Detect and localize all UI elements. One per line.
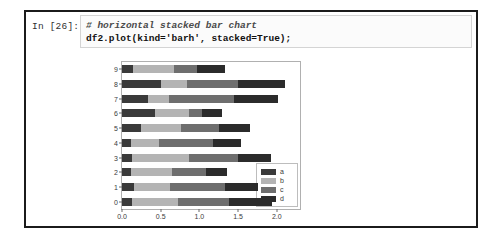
y-axis-tick-label: 4 <box>114 139 118 146</box>
bar-segment-d <box>234 95 278 103</box>
legend-label-b: b <box>280 177 284 184</box>
bar-segment-b <box>132 154 188 162</box>
x-axis-tick-mark <box>276 209 277 212</box>
bar-segment-a <box>122 80 161 88</box>
code-editor[interactable]: # horizontal stacked bar chart df2.plot(… <box>80 15 472 48</box>
legend-label-d: d <box>280 195 284 202</box>
stacked-bar <box>122 183 258 191</box>
matplotlib-figure: abcd 0.00.51.01.52.00123456789 <box>74 53 334 223</box>
bar-segment-c <box>187 80 238 88</box>
notebook-cell: In [26]: # horizontal stacked bar chart … <box>24 10 478 228</box>
y-axis-tick-label: 6 <box>114 110 118 117</box>
bar-segment-b <box>131 168 173 176</box>
y-axis-tick-label: 0 <box>114 198 118 205</box>
x-axis-tick-label: 0.0 <box>117 213 127 220</box>
x-axis-tick-label: 1.0 <box>195 213 205 220</box>
x-axis-tick-label: 1.5 <box>233 213 243 220</box>
bar-segment-d <box>238 154 271 162</box>
bar-segment-d <box>197 65 225 73</box>
legend-swatch-a <box>261 169 276 175</box>
bar-segment-a <box>122 183 134 191</box>
bar-segment-b <box>133 65 174 73</box>
stacked-bar <box>122 139 241 147</box>
bar-segment-c <box>169 95 234 103</box>
bar-segment-a <box>122 139 131 147</box>
bar-segment-a <box>122 124 141 132</box>
stacked-bar <box>122 154 271 162</box>
y-axis-tick-label: 5 <box>114 125 118 132</box>
stacked-bar <box>122 65 225 73</box>
bar-segment-c <box>172 168 206 176</box>
stacked-bar <box>122 80 285 88</box>
bar-segment-d <box>229 198 272 206</box>
execution-prompt-label: In [26]: <box>32 21 79 32</box>
x-axis-tick-mark <box>238 209 239 212</box>
y-axis-tick-label: 7 <box>114 95 118 102</box>
bar-segment-b <box>131 139 159 147</box>
x-axis-tick-mark <box>122 209 123 212</box>
legend-swatch-b <box>261 178 276 184</box>
bar-segment-b <box>134 183 170 191</box>
bar-segment-d <box>206 168 227 176</box>
bar-segment-d <box>225 183 258 191</box>
bar-segment-a <box>122 65 133 73</box>
bar-segment-d <box>238 80 285 88</box>
bar-segment-c <box>170 183 225 191</box>
bar-segment-d <box>213 139 242 147</box>
y-axis-tick-label: 1 <box>114 183 118 190</box>
bar-segment-c <box>178 198 228 206</box>
notebook-input-row: In [26]: # horizontal stacked bar chart … <box>26 12 476 52</box>
legend-item-a: a <box>261 167 293 176</box>
stacked-bar <box>122 198 272 206</box>
legend-item-b: b <box>261 176 293 185</box>
notebook-output-area: abcd 0.00.51.01.52.00123456789 <box>26 52 476 228</box>
stacked-bar <box>122 168 227 176</box>
bar-segment-b <box>148 95 170 103</box>
bar-segment-b <box>141 124 181 132</box>
plot-axes: abcd 0.00.51.01.52.00123456789 <box>121 61 301 210</box>
legend-label-a: a <box>280 168 284 175</box>
legend-item-c: c <box>261 185 293 194</box>
bar-segment-c <box>189 154 239 162</box>
y-axis-tick-label: 9 <box>114 66 118 73</box>
legend-label-c: c <box>280 186 284 193</box>
legend-swatch-c <box>261 187 276 193</box>
code-line-comment: # horizontal stacked bar chart <box>86 19 466 32</box>
bar-segment-b <box>161 80 187 88</box>
stacked-bar <box>122 109 222 117</box>
bar-segment-d <box>219 124 251 132</box>
x-axis-tick-mark <box>199 209 200 212</box>
bar-segment-a <box>122 198 132 206</box>
bar-segment-b <box>132 198 178 206</box>
stacked-bar <box>122 95 278 103</box>
bar-segment-d <box>202 109 222 117</box>
bar-segment-a <box>122 109 155 117</box>
y-axis-tick-label: 2 <box>114 169 118 176</box>
bar-segment-c <box>174 65 197 73</box>
stacked-bar <box>122 124 250 132</box>
bar-segment-a <box>122 95 148 103</box>
x-axis-tick-mark <box>160 209 161 212</box>
bar-segment-c <box>189 109 201 117</box>
x-axis-tick-label: 2.0 <box>272 213 282 220</box>
bar-segment-c <box>159 139 212 147</box>
bar-segment-c <box>181 124 219 132</box>
bar-segment-a <box>122 154 132 162</box>
x-axis-tick-label: 0.5 <box>156 213 166 220</box>
bar-segment-a <box>122 168 131 176</box>
bar-segment-b <box>155 109 190 117</box>
y-axis-tick-label: 8 <box>114 81 118 88</box>
y-axis-tick-label: 3 <box>114 154 118 161</box>
code-line-statement: df2.plot(kind='barh', stacked=True); <box>86 32 466 45</box>
